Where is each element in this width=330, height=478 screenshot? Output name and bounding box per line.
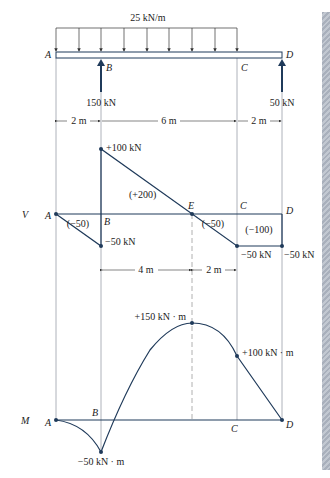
reaction-b-label: 150 kN — [86, 97, 116, 108]
dim-cd: 2 m — [251, 115, 267, 126]
moment-diagram — [56, 323, 282, 452]
shear-point-c: C — [240, 200, 247, 211]
moment-c: +100 kN · m — [242, 347, 294, 358]
distributed-load — [56, 28, 237, 51]
reaction-b-arrow — [97, 59, 105, 92]
moment-point-c: C — [231, 423, 238, 434]
beam-diagram: 25 kN/m A D B C 150 kN 50 kN 2 m 6 m 2 m… — [0, 0, 330, 478]
moment-point-a: A — [44, 417, 52, 428]
area-be: (+200) — [129, 189, 156, 201]
point-d-label: D — [285, 49, 294, 60]
shear-point-a: A — [44, 210, 52, 221]
area-ab: (−50) — [67, 218, 89, 230]
dim-ab: 2 m — [71, 115, 87, 126]
shear-d: −50 kN — [284, 249, 314, 260]
beam — [56, 52, 282, 58]
dim-ec: 2 m — [206, 264, 222, 275]
shear-c: −50 kN — [241, 249, 271, 260]
moment-point-d: D — [285, 419, 294, 430]
shear-b-top: +100 kN — [106, 142, 141, 153]
point-b-label: B — [106, 62, 112, 73]
moment-e: +150 kN · m — [135, 311, 187, 322]
area-ec: (−50) — [202, 218, 224, 230]
point-a-label: A — [44, 49, 52, 60]
shear-point-b: B — [104, 216, 110, 227]
moment-points — [54, 321, 284, 454]
dim-be: 4 m — [138, 264, 154, 275]
area-cd: (−100) — [245, 224, 272, 236]
dim-bc: 6 m — [161, 115, 177, 126]
moment-axis-label: M — [20, 415, 30, 426]
reaction-d-label: 50 kN — [270, 97, 295, 108]
load-label: 25 kN/m — [130, 12, 166, 23]
point-c-label: C — [241, 62, 248, 73]
shear-point-d: D — [285, 205, 294, 216]
shear-axis-label: V — [22, 209, 30, 220]
shear-point-e: E — [187, 200, 194, 211]
moment-point-b: B — [92, 407, 98, 418]
reaction-d-arrow — [278, 59, 286, 92]
shear-b-bottom: −50 kN — [105, 236, 135, 247]
moment-b: −50 kN · m — [78, 456, 125, 467]
